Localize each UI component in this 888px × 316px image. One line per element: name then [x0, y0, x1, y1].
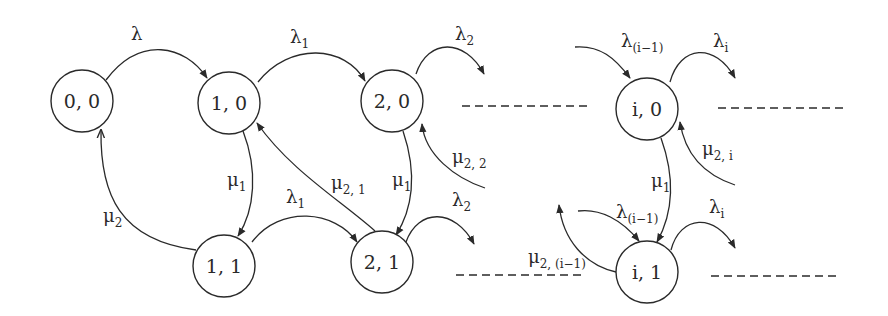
- rate-label-lambda: λ: [131, 23, 142, 44]
- rate-label-mu1-right: μ1: [651, 170, 670, 195]
- state-node-2-1: 2, 1: [351, 231, 413, 293]
- state-node-i-1: i, 1: [616, 241, 678, 303]
- edge-10-to-20: [258, 53, 365, 82]
- rate-label-lambda2-bottom: λ2: [452, 189, 471, 214]
- rate-label-lambda-i-top: λi: [713, 30, 728, 55]
- state-node-i-0: i, 0: [616, 78, 678, 140]
- state-node-0-0: 0, 0: [51, 70, 113, 132]
- edge-11-to-00: [101, 130, 196, 250]
- edge-21-out: [406, 217, 474, 244]
- rate-label-mu1-mid: μ1: [392, 169, 411, 194]
- state-label: 1, 0: [211, 92, 247, 114]
- rate-label-lambda-i-minus-1-top: λ(i−1): [621, 30, 663, 55]
- rate-label-lambda-i-bottom: λi: [709, 196, 724, 221]
- state-label: i, 1: [632, 261, 662, 283]
- state-label: 2, 0: [374, 90, 410, 112]
- state-label: 0, 0: [64, 90, 100, 112]
- rate-label-mu1-left: μ1: [227, 169, 246, 194]
- state-label: 1, 1: [206, 255, 242, 277]
- rate-label-lambda1-bottom: λ1: [286, 186, 305, 211]
- state-node-1-1: 1, 1: [193, 235, 255, 297]
- state-label: 2, 1: [364, 251, 400, 273]
- rate-label-mu2: μ2: [103, 205, 122, 230]
- edge-20-out: [416, 47, 484, 74]
- rate-label-mu22: μ2, 2: [452, 146, 487, 171]
- rate-label-lambda-i-minus-1-bottom: λ(i−1): [616, 201, 658, 226]
- edge-11-to-21: [252, 216, 357, 242]
- state-transition-diagram: 0, 0 1, 0 2, 0 1, 1 2, 1 i, 0 i, 1 λ λ1 …: [0, 0, 888, 316]
- edge-in-to-i0: [575, 47, 630, 78]
- rate-label-mu21: μ2, 1: [331, 172, 366, 197]
- rate-label-lambda2-top: λ2: [455, 23, 474, 48]
- edge-00-to-10: [106, 50, 207, 80]
- edge-i1-out: [671, 222, 735, 250]
- rate-label-mu2i: μ2, i: [702, 138, 733, 163]
- edge-i0-out: [670, 53, 735, 82]
- state-label: i, 0: [632, 98, 662, 120]
- state-node-2-0: 2, 0: [361, 70, 423, 132]
- rate-label-lambda1-top: λ1: [290, 26, 309, 51]
- state-node-1-0: 1, 0: [198, 72, 260, 134]
- edge-21-to-10: [257, 123, 375, 231]
